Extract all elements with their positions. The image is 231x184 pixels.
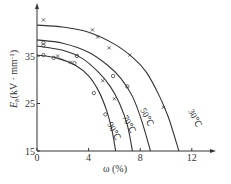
circle-marker-icon — [111, 74, 114, 77]
y-label-e: E — [8, 102, 19, 109]
cross-marker-icon — [42, 18, 45, 21]
cross-marker-icon — [101, 79, 104, 82]
curves — [37, 25, 179, 151]
curve-label: 30℃ — [186, 107, 204, 128]
y-tick-label: 15 — [25, 146, 35, 157]
x-tick-label: 8 — [138, 152, 143, 163]
y-tick-label: 25 — [25, 98, 35, 109]
dielectric-strength-chart: 04812152535 30℃50℃70℃90℃ ω (%) Eb(kV · m… — [0, 0, 231, 184]
axes — [35, 3, 216, 153]
cross-marker-icon — [128, 53, 131, 56]
x-tick-label: 12 — [187, 152, 197, 163]
circle-marker-icon — [104, 113, 107, 116]
y-tick-label: 35 — [25, 51, 35, 62]
curve-label: 70℃ — [120, 113, 138, 134]
cross-marker-icon — [108, 46, 111, 49]
x-tick-label: 4 — [86, 152, 91, 163]
y-axis-label: Eb(kV · mm-1) — [8, 50, 21, 109]
x-axis-label: ω (%) — [103, 163, 127, 175]
y-label-close: ) — [8, 50, 20, 53]
cross-marker-icon — [56, 54, 59, 57]
curve-label: 90℃ — [105, 120, 123, 141]
curve-90℃ — [37, 55, 116, 151]
x-axis-arrow-icon — [210, 149, 216, 153]
cross-marker-icon — [113, 97, 116, 100]
svg-text:Eb(kV · mm-1): Eb(kV · mm-1) — [8, 50, 21, 109]
y-label-unit: (kV · mm — [8, 59, 20, 98]
x-tick-label: 0 — [35, 152, 40, 163]
curve-30℃ — [37, 25, 179, 151]
y-axis-arrow-icon — [35, 3, 39, 9]
cross-marker-icon — [91, 28, 94, 31]
curve-labels: 30℃50℃70℃90℃ — [105, 106, 204, 141]
circle-marker-icon — [92, 91, 95, 94]
